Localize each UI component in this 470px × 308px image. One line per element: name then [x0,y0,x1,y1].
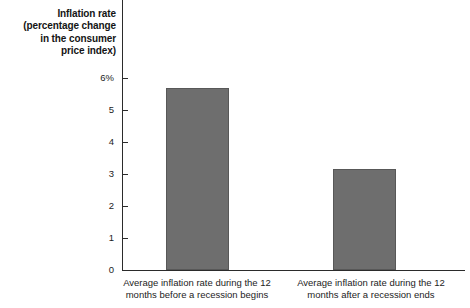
x-axis-label-0-line-1: Average inflation rate during the 12 [113,277,281,289]
y-axis-tick-mark [123,142,128,143]
x-axis-label-1-line-1: Average inflation rate during the 12 [281,277,461,289]
y-axis-tick-label: 3 [74,169,114,179]
y-axis-tick-label: 1 [74,233,114,243]
y-axis-tick-label: 2 [74,201,114,211]
x-axis-line [122,270,465,271]
y-axis-tick-mark [123,110,128,111]
x-axis-label-1-line-2: months after a recession ends [281,289,461,301]
y-axis-title: Inflation rate (percentage change in the… [6,8,116,58]
y-axis-tick-mark [123,174,128,175]
y-axis-title-line-2: (percentage change [6,20,116,32]
y-axis-tick-label: 0 [74,265,114,275]
bar-0 [166,88,229,270]
y-axis-title-line-3: in the consumer [6,33,116,45]
y-axis-title-line-1: Inflation rate [6,8,116,20]
y-axis-line [122,0,123,271]
x-axis-label-0: Average inflation rate during the 12 mon… [113,277,281,300]
y-axis-tick-label: 5 [74,105,114,115]
bar-chart: Inflation rate (percentage change in the… [0,0,470,308]
y-axis-tick-mark [123,78,128,79]
bar-1 [333,169,396,270]
y-axis-tick-mark [123,238,128,239]
x-axis-label-1: Average inflation rate during the 12 mon… [281,277,461,300]
y-axis-title-line-4: price index) [6,45,116,57]
y-axis-tick-label: 6% [74,73,114,83]
y-axis-tick-mark [123,206,128,207]
y-axis-tick-mark [123,270,128,271]
y-axis-tick-label: 4 [74,137,114,147]
x-axis-label-0-line-2: months before a recession begins [113,289,281,301]
